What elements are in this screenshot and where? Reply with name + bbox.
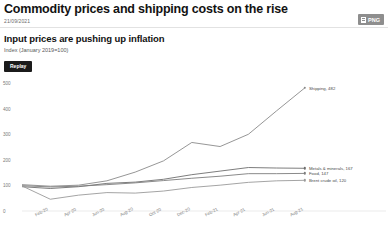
y-axis-tick-label: 200	[3, 157, 11, 162]
series-end-label: Food, 147	[309, 171, 328, 176]
chart-page: Commodity prices and shipping costs on t…	[0, 0, 388, 228]
y-axis-tick-label: 500	[3, 81, 11, 86]
series-line	[22, 88, 305, 186]
chart-plot-area: 0100200300400500 Feb-20Apr-20Jun-20Aug-2…	[0, 74, 388, 228]
download-png-label: PNG	[368, 17, 380, 23]
download-icon	[361, 17, 366, 23]
y-axis-tick-label: 100	[3, 183, 11, 188]
series-end-label: Shipping, 482	[309, 85, 335, 90]
y-axis-tick-label: 300	[3, 132, 11, 137]
header-divider	[0, 27, 388, 28]
replay-button[interactable]: Replay	[4, 61, 32, 72]
download-png-button[interactable]: PNG	[358, 14, 384, 25]
page-headline: Commodity prices and shipping costs on t…	[4, 2, 288, 16]
y-axis-tick-label: 400	[3, 106, 11, 111]
chart-lines	[0, 74, 388, 228]
series-end-label: Brent crude oil, 120	[309, 178, 346, 183]
chart-subtitle: Index (January 2019=100)	[4, 47, 68, 53]
series-line	[22, 173, 305, 187]
series-line	[22, 180, 305, 199]
chart-title: Input prices are pushing up inflation	[4, 33, 164, 44]
y-axis-tick-label: 0	[3, 209, 6, 214]
publish-date: 21/09/2021	[4, 18, 30, 24]
